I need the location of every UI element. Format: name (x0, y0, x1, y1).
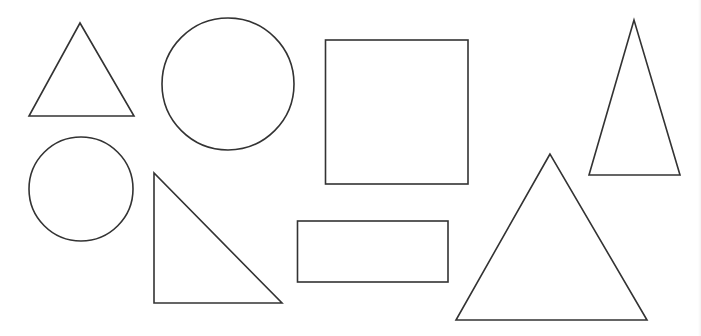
circle-small-left-shape (29, 137, 133, 241)
shapes-canvas (0, 0, 701, 336)
triangle-small-top-left-shape (29, 23, 134, 116)
shape-layer (29, 18, 680, 320)
circle-large-top-shape (162, 18, 294, 150)
triangle-large-bottom-right-shape (456, 154, 647, 320)
rectangle-bottom-center-shape (298, 221, 449, 282)
square-top-center-shape (326, 40, 469, 184)
triangle-tall-right-shape (589, 20, 680, 175)
triangle-right-angle-shape (154, 173, 282, 303)
